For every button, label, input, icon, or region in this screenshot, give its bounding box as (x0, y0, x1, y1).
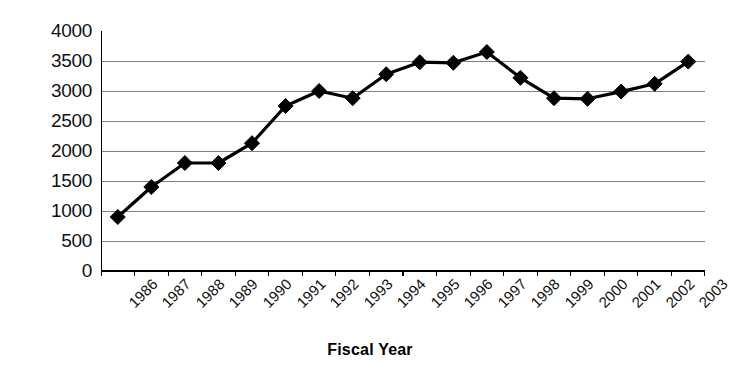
x-tick-label: 1989 (226, 276, 260, 310)
x-tick-label: 1990 (260, 276, 294, 310)
y-tick-label: 1000 (0, 201, 92, 220)
y-tick-label: 3500 (0, 51, 92, 70)
x-tick-label: 1987 (159, 276, 193, 310)
line-chart: 05001000150020002500300035004000 1986198… (0, 0, 740, 376)
y-tick-label: 1500 (0, 171, 92, 190)
x-tick-label: 1998 (528, 276, 562, 310)
y-tick-label: 4000 (0, 21, 92, 40)
x-tick-label: 2002 (662, 276, 696, 310)
plot-area (101, 31, 705, 271)
data-point-marker (446, 55, 461, 70)
x-tick-label: 1999 (562, 276, 596, 310)
data-point-marker (614, 84, 629, 99)
y-tick-label: 2500 (0, 111, 92, 130)
x-tick-label: 2003 (696, 276, 730, 310)
y-tick-label: 2000 (0, 141, 92, 160)
data-point-marker (312, 84, 327, 99)
data-point-marker (547, 91, 562, 106)
x-tick-label: 1997 (495, 276, 529, 310)
x-tick-label: 1995 (428, 276, 462, 310)
x-tick-label: 1993 (360, 276, 394, 310)
x-tick-label: 1991 (293, 276, 327, 310)
y-tick-label: 3000 (0, 81, 92, 100)
x-tick-label: 2000 (595, 276, 629, 310)
data-series-line (118, 52, 688, 217)
x-tick-label: 1988 (193, 276, 227, 310)
x-tick-label: 1992 (327, 276, 361, 310)
data-point-marker (211, 156, 226, 171)
data-point-marker (412, 55, 427, 70)
x-tick-label: 1996 (461, 276, 495, 310)
x-axis-tick-labels: 1986198719881989199019911992199319941995… (101, 276, 705, 336)
y-tick-label: 500 (0, 231, 92, 250)
x-tick-label: 2001 (629, 276, 663, 310)
y-axis-tick-labels: 05001000150020002500300035004000 (0, 0, 92, 290)
y-tick-label: 0 (0, 261, 92, 280)
x-tick-label: 1986 (126, 276, 160, 310)
x-axis-title: Fiscal Year (0, 341, 740, 359)
data-point-marker (580, 91, 595, 106)
plot-canvas (101, 31, 705, 276)
x-tick-label: 1994 (394, 276, 428, 310)
